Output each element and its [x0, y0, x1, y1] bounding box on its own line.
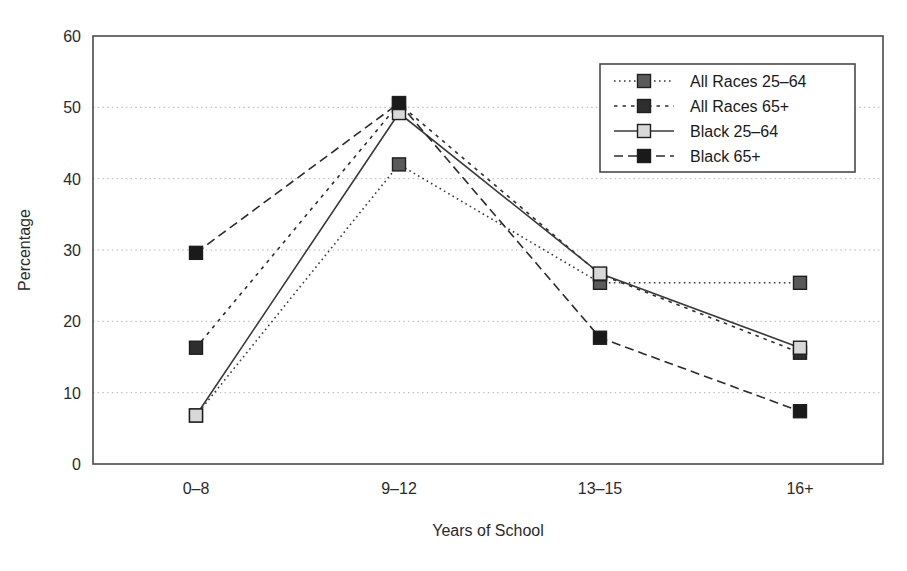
- data-point-marker: [794, 341, 807, 354]
- line-chart: 0102030405060Percentage0–89–1213–1516+Ye…: [0, 0, 907, 571]
- data-point-marker: [393, 97, 406, 110]
- data-point-marker: [594, 331, 607, 344]
- data-point-marker: [190, 409, 203, 422]
- x-axis-title: Years of School: [432, 522, 543, 539]
- legend-item-label: Black 65+: [690, 148, 761, 165]
- y-tick-label: 0: [72, 456, 81, 473]
- x-axis-ticks: 0–89–1213–1516+: [183, 480, 814, 497]
- x-tick-label: 13–15: [578, 480, 623, 497]
- legend-marker-sample: [638, 100, 651, 113]
- legend-marker-sample: [638, 125, 651, 138]
- y-tick-label: 50: [63, 99, 81, 116]
- legend-item[interactable]: All Races 65+: [614, 98, 789, 115]
- legend-item-label: All Races 65+: [690, 98, 789, 115]
- legend-item[interactable]: Black 25–64: [614, 123, 778, 140]
- y-axis-ticks: 0102030405060: [63, 28, 81, 473]
- legend-item-label: All Races 25–64: [690, 73, 807, 90]
- data-point-marker: [190, 341, 203, 354]
- y-tick-label: 10: [63, 385, 81, 402]
- legend-item-label: Black 25–64: [690, 123, 778, 140]
- data-point-marker: [794, 276, 807, 289]
- legend-marker-sample: [638, 150, 651, 163]
- data-point-marker: [190, 246, 203, 259]
- legend-item[interactable]: All Races 25–64: [614, 73, 807, 90]
- y-tick-label: 20: [63, 313, 81, 330]
- x-tick-label: 0–8: [183, 480, 210, 497]
- y-tick-label: 60: [63, 28, 81, 45]
- series: [190, 158, 807, 422]
- legend: All Races 25–64All Races 65+Black 25–64B…: [600, 64, 855, 172]
- legend-marker-sample: [638, 75, 651, 88]
- y-tick-label: 40: [63, 171, 81, 188]
- chart-page: 0102030405060Percentage0–89–1213–1516+Ye…: [0, 0, 907, 571]
- data-point-marker: [393, 158, 406, 171]
- data-point-marker: [594, 267, 607, 280]
- x-tick-label: 16+: [786, 480, 813, 497]
- y-tick-label: 30: [63, 242, 81, 259]
- x-tick-label: 9–12: [381, 480, 417, 497]
- data-point-marker: [794, 405, 807, 418]
- y-axis-title: Percentage: [16, 209, 33, 291]
